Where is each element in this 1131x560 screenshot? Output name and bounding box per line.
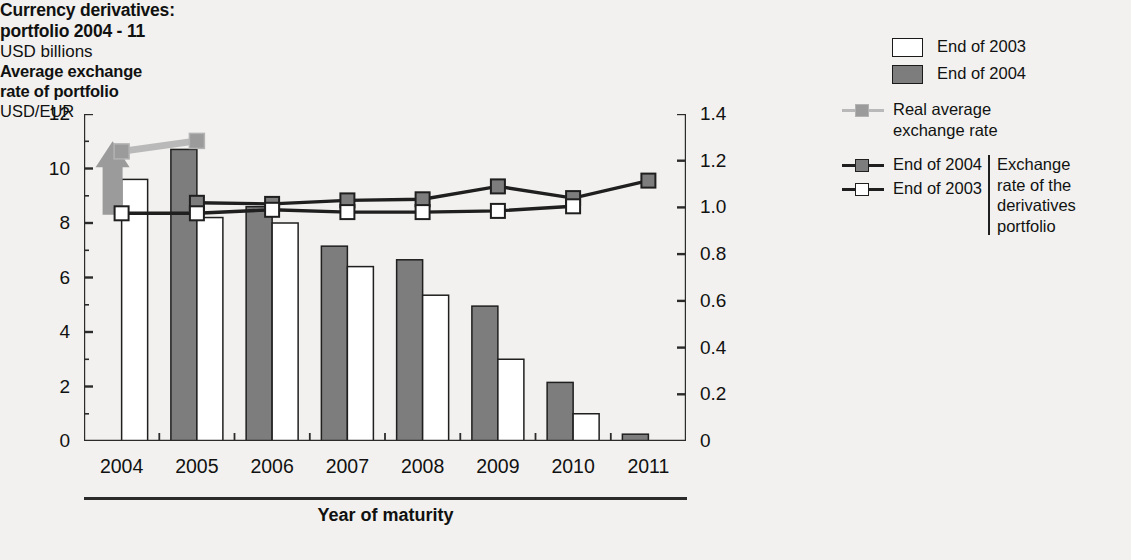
bar [423, 295, 449, 441]
brace-line-4: portfolio [997, 217, 1056, 235]
legend-item-bar-end-of-2004[interactable]: End of 2004 [886, 63, 1122, 85]
bar [472, 306, 498, 441]
bar [547, 382, 573, 441]
chart-legend: End of 2003 End of 2004 Real average exc… [842, 36, 1122, 236]
line-marker [566, 199, 580, 213]
x-axis-title: Year of maturity [84, 505, 687, 526]
x-axis-tick-label: 2006 [232, 457, 312, 476]
x-axis-rule [84, 497, 687, 500]
line-marker [491, 204, 505, 218]
legend-brace-divider [988, 155, 990, 235]
bar [197, 218, 223, 441]
y2-axis-tick-label: 1.2 [700, 151, 760, 170]
line-marker [190, 206, 204, 220]
line-marker [265, 203, 279, 217]
y-axis-tick-label: 4 [24, 322, 70, 341]
chart-svg [84, 114, 686, 441]
brace-line-1: Exchange [997, 155, 1070, 173]
chart-figure: Currency derivatives: portfolio 2004 - 1… [0, 0, 1131, 560]
line-marker [114, 144, 129, 159]
y2-axis-tick-label: 1.4 [700, 104, 760, 123]
x-axis-tick-label: 2008 [383, 457, 463, 476]
x-axis-tick-label: 2005 [157, 457, 237, 476]
bar [397, 260, 423, 441]
dark-line-gray-marker-icon [842, 154, 884, 176]
x-axis-tick-label: 2007 [307, 457, 387, 476]
legend-bars-group: End of 2003 End of 2004 [886, 36, 1122, 85]
light-gray-line-marker-icon [842, 99, 884, 121]
legend-label: End of 2003 [884, 178, 982, 199]
bar [321, 246, 347, 441]
legend-label-line-2: exchange rate [893, 121, 998, 139]
legend-item-line-end-of-2004[interactable]: End of 2004 [842, 154, 982, 176]
title-units: USD billions [0, 41, 330, 62]
y2-axis-tick-label: 0.2 [700, 384, 760, 403]
line-marker [115, 206, 129, 220]
legend-item-bar-end-of-2003[interactable]: End of 2003 [886, 36, 1122, 58]
white-box-icon [886, 36, 928, 58]
x-axis-tick-label: 2010 [533, 457, 613, 476]
y2-axis-tick-label: 0 [700, 431, 760, 450]
line-marker [189, 133, 204, 148]
title-line-2: portfolio 2004 - 11 [0, 21, 330, 42]
bar [573, 414, 599, 441]
brace-line-3: derivatives [997, 196, 1076, 214]
legend-label: End of 2003 [928, 36, 1026, 57]
bar [171, 149, 197, 441]
bar [498, 359, 524, 441]
y-axis-tick-label: 2 [24, 377, 70, 396]
dark-line-white-marker-icon [842, 178, 884, 200]
legend-label: End of 2004 [884, 154, 982, 175]
line-marker [416, 205, 430, 219]
y2-axis-tick-label: 1.0 [700, 197, 760, 216]
title-line-1: Currency derivatives: [0, 0, 330, 21]
bar [272, 223, 298, 441]
y2-axis-tick-label: 0.4 [700, 338, 760, 357]
legend-real-average-group: Real average exchange rate [842, 99, 1122, 140]
line-marker [340, 205, 354, 219]
bar [347, 267, 373, 441]
brace-line-2: rate of the [997, 176, 1071, 194]
x-axis-tick-label: 2004 [82, 457, 162, 476]
plot-area [84, 114, 686, 441]
secondary-axis-title-line-2: rate of portfolio [0, 82, 240, 102]
legend-item-real-average-exchange-rate[interactable]: Real average exchange rate [842, 99, 1122, 140]
legend-exchange-rate-group: End of 2004 End of 2003 Exchange rate of… [842, 154, 1122, 236]
line-marker [641, 174, 655, 188]
y-axis-tick-label: 8 [24, 213, 70, 232]
y-axis-tick-label: 6 [24, 268, 70, 287]
page-title: Currency derivatives: portfolio 2004 - 1… [0, 0, 330, 62]
legend-item-line-end-of-2003[interactable]: End of 2003 [842, 178, 982, 200]
legend-label-line-1: Real average [893, 100, 991, 118]
y2-axis-tick-label: 0.6 [700, 291, 760, 310]
secondary-axis-title-line-1: Average exchange [0, 62, 240, 82]
line-marker [491, 179, 505, 193]
y2-axis-tick-label: 0.8 [700, 244, 760, 263]
gray-box-icon [886, 63, 928, 85]
bar [246, 207, 272, 441]
y-axis-tick-label: 12 [24, 104, 70, 123]
legend-label: End of 2004 [928, 63, 1026, 84]
x-axis-tick-label: 2009 [458, 457, 538, 476]
legend-brace-text: Exchange rate of the derivatives portfol… [997, 154, 1076, 236]
x-axis-tick-label: 2011 [608, 457, 688, 476]
y-axis-tick-label: 10 [24, 159, 70, 178]
y-axis-tick-label: 0 [24, 431, 70, 450]
